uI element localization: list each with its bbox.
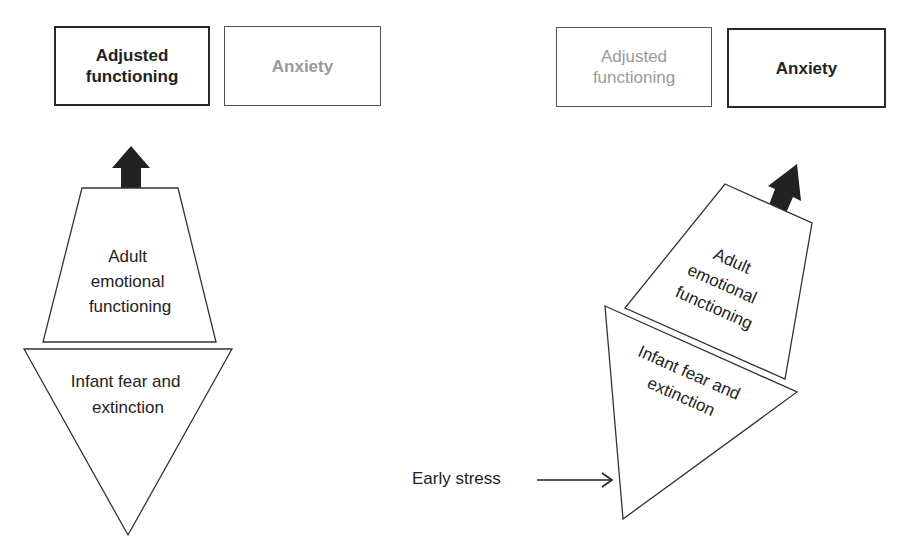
early-stress-arrow-icon [537, 473, 612, 487]
left-up-arrow-icon [112, 146, 150, 188]
right-tilted-group: Adult emotional functioning Infant fear … [605, 164, 812, 519]
early-stress-label: Early stress [412, 469, 501, 489]
